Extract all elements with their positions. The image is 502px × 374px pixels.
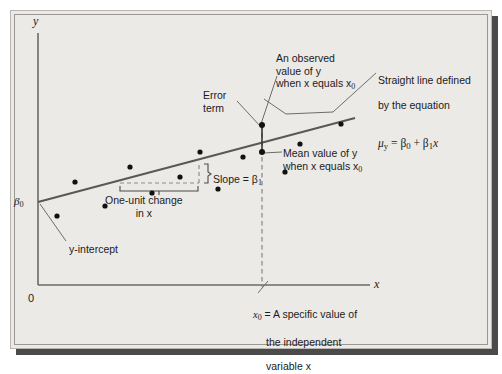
callout-x0-definition-line3: variable x	[253, 360, 357, 372]
callout-x0-definition-line1: x0 = A specific value of	[253, 308, 357, 324]
callout-slope: Slope = β1	[213, 173, 262, 189]
data-point	[177, 174, 182, 179]
data-point	[338, 121, 343, 126]
leader-x0	[258, 281, 268, 293]
data-point-mean-on-line	[259, 149, 265, 155]
callout-x0-definition: x0 = A specific value of the independent…	[253, 296, 357, 374]
callout-slope-text: Slope = β	[213, 173, 258, 185]
equation-x: x	[433, 137, 438, 149]
data-point	[127, 164, 132, 169]
equation-plus-beta: + β	[411, 137, 429, 149]
beta0-subscript: 0	[19, 200, 23, 209]
leader-mean-value	[263, 152, 282, 153]
callout-straight-line: Straight line defined by the equation μy…	[378, 61, 471, 165]
data-point	[197, 149, 202, 154]
callout-error-term: Error term	[203, 89, 226, 114]
data-point	[54, 213, 59, 218]
y-axis-label: y	[33, 14, 38, 29]
callout-observed-value-subscript: 0	[351, 82, 355, 91]
data-point	[240, 154, 245, 159]
regression-equation: μy = β0 + β1x	[378, 125, 471, 153]
equation-equals-beta: = β	[388, 137, 406, 149]
beta0-intercept-label: β0	[14, 195, 24, 209]
callout-mean-value-text: Mean value of y when x equals x	[283, 147, 358, 172]
data-point-observed	[259, 122, 265, 128]
callout-y-intercept: y-intercept	[69, 243, 118, 256]
callout-x0-rest: = A specific value of	[262, 308, 357, 320]
leader-error-term	[237, 101, 261, 127]
data-point	[72, 179, 77, 184]
leader-observed	[261, 76, 277, 124]
data-point	[297, 141, 302, 146]
origin-label: 0	[28, 292, 34, 304]
leader-y-intercept	[40, 204, 66, 241]
slope-brace	[204, 164, 211, 183]
callout-slope-subscript: 1	[258, 178, 262, 187]
callout-observed-value-text: An observed value of y when x equals x	[276, 52, 351, 89]
callout-straight-line-2: by the equation	[378, 99, 471, 112]
callout-x0-definition-line2: the independent	[253, 336, 357, 348]
callout-observed-value: An observed value of y when x equals x0	[276, 52, 355, 93]
callout-mean-value: Mean value of y when x equals x0	[283, 147, 362, 176]
x-axis-label: x	[374, 277, 379, 292]
callout-straight-line-1: Straight line defined	[378, 74, 471, 87]
callout-mean-value-subscript: 0	[358, 164, 362, 173]
callout-one-unit-change: One-unit change in x	[105, 194, 183, 219]
